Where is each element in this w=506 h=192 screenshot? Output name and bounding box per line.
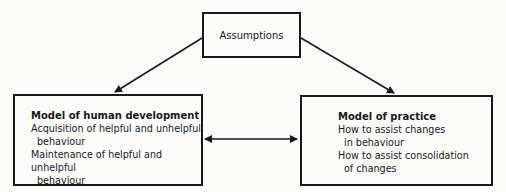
- human-development-title: Model of human development: [31, 109, 201, 122]
- line: of changes: [338, 162, 491, 175]
- practice-title: Model of practice: [338, 110, 491, 123]
- line: How to assist changes: [338, 123, 491, 136]
- arrow-to-practice: [301, 38, 394, 93]
- line: behaviour: [31, 174, 201, 187]
- line: behaviour: [31, 135, 201, 148]
- human-development-box: Model of human development Acquisition o…: [13, 94, 203, 186]
- line: Maintenance of helpful and unhelpful: [31, 148, 201, 174]
- assumptions-label: Assumptions: [219, 30, 283, 41]
- arrow-to-human-development: [115, 38, 202, 92]
- line: Acquisition of helpful and unhelpful: [31, 122, 201, 135]
- assumptions-box: Assumptions: [202, 12, 301, 58]
- line: in behaviour: [338, 136, 491, 149]
- line: How to assist consolidation: [338, 149, 491, 162]
- practice-box: Model of practice How to assist changes …: [300, 95, 493, 186]
